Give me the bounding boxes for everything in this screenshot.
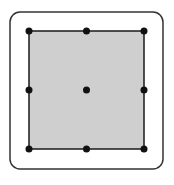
handle-bottom-left[interactable] [26, 146, 33, 153]
handle-middle-left[interactable] [26, 87, 33, 94]
handle-middle-right[interactable] [141, 87, 148, 94]
handle-top-center[interactable] [83, 28, 90, 35]
handle-bottom-center[interactable] [83, 146, 90, 153]
handle-bottom-right[interactable] [141, 146, 148, 153]
handle-center[interactable] [83, 87, 90, 94]
handle-top-left[interactable] [26, 28, 33, 35]
diagram-canvas [0, 0, 174, 185]
handle-top-right[interactable] [141, 28, 148, 35]
